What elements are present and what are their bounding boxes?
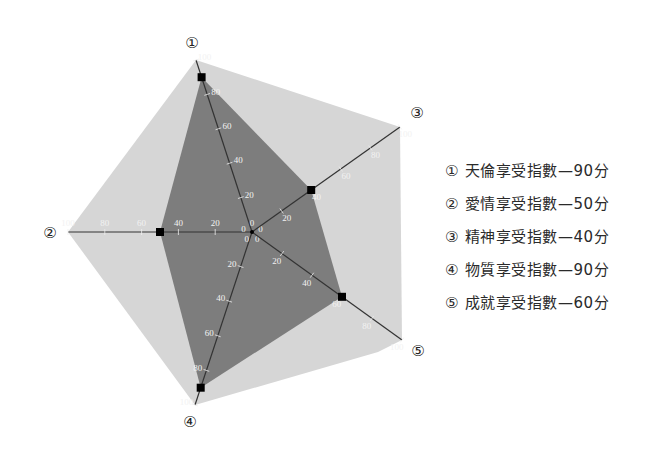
center-point <box>250 230 254 234</box>
legend-text: 精神享受指數—40分 <box>465 228 609 246</box>
tick-label: 20 <box>282 213 292 223</box>
tick-label: 20 <box>245 190 255 200</box>
legend-text: 天倫享受指數—90分 <box>465 162 609 180</box>
tick-label: 80 <box>193 363 203 373</box>
tick-label: 0 <box>244 234 249 244</box>
tick-label: 100 <box>198 52 212 62</box>
tick-label: 0 <box>241 224 246 234</box>
legend-marker: ③ <box>445 228 459 246</box>
axis-number-label: ① <box>185 34 198 52</box>
tick-label: 40 <box>302 278 312 288</box>
tick-label: 20 <box>228 259 238 269</box>
axis-number-label: ② <box>43 224 56 242</box>
legend-text: 愛情享受指數—50分 <box>465 195 609 213</box>
tick-label: 100 <box>398 129 412 139</box>
tick-label: 100 <box>180 397 194 407</box>
legend-text: 物質享受指數—90分 <box>465 261 609 279</box>
tick-label: 80 <box>100 218 110 228</box>
legend-item: ④物質享受指數—90分 <box>445 255 609 288</box>
tick-label: 60 <box>342 171 352 181</box>
legend-text: 成就享受指數—60分 <box>465 294 609 312</box>
legend-item: ②愛情享受指數—50分 <box>445 189 609 222</box>
tick-label: 80 <box>371 150 381 160</box>
radar-chart: 0204060801000204060801000204060801000204… <box>0 0 440 457</box>
tick-label: 40 <box>174 218 184 228</box>
tick-label: 100 <box>390 342 404 352</box>
tick-label: 60 <box>222 121 232 131</box>
data-marker <box>156 228 164 236</box>
tick-label: 0 <box>250 218 255 228</box>
legend-item: ③精神享受指數—40分 <box>445 222 609 255</box>
tick-label: 40 <box>234 155 244 165</box>
legend: ①天倫享受指數—90分 ②愛情享受指數—50分 ③精神享受指數—40分 ④物質享… <box>445 156 609 321</box>
tick-label: 80 <box>362 321 372 331</box>
legend-item: ①天倫享受指數—90分 <box>445 156 609 189</box>
legend-marker: ④ <box>445 261 459 279</box>
legend-marker: ① <box>445 162 459 180</box>
tick-label: 100 <box>61 218 75 228</box>
tick-label: 60 <box>137 218 147 228</box>
axis-number-label: ⑤ <box>411 342 424 360</box>
legend-item: ⑤成就享受指數—60分 <box>445 288 609 321</box>
tick-label: 20 <box>272 256 282 266</box>
data-marker <box>197 384 205 392</box>
legend-marker: ⑤ <box>445 294 459 312</box>
data-marker <box>338 293 346 301</box>
axis-number-label: ④ <box>183 413 196 431</box>
tick-label: 60 <box>205 328 215 338</box>
data-marker <box>198 73 206 81</box>
tick-label: 40 <box>216 293 226 303</box>
tick-label: 20 <box>211 218 221 228</box>
legend-marker: ② <box>445 195 459 213</box>
data-marker <box>307 186 315 194</box>
axis-number-label: ③ <box>410 104 423 122</box>
tick-label: 80 <box>211 87 221 97</box>
